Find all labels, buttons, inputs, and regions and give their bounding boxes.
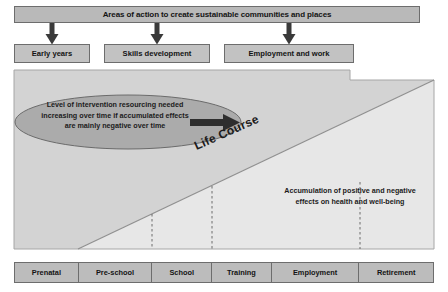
action-box-employment-and-work-label: Employment and work xyxy=(248,49,329,58)
action-box-skills-development[interactable]: Skills development xyxy=(104,44,210,63)
action-box-employment-and-work[interactable]: Employment and work xyxy=(224,44,354,63)
life-stage-retirement[interactable]: Retirement xyxy=(359,263,433,282)
accumulation-caption-line-2: effects on health and well-being xyxy=(262,197,438,208)
areas-of-action-header-label: Areas of action to create sustainable co… xyxy=(103,10,332,19)
intervention-ellipse-caption-line-3: are mainly negative over time xyxy=(30,121,200,132)
life-stage-employment-label: Employment xyxy=(293,268,337,277)
arrow-down-employment-and-work xyxy=(282,23,296,45)
accumulation-caption: Accumulation of positive and negative ef… xyxy=(262,186,438,207)
life-stage-pre-school[interactable]: Pre-school xyxy=(79,263,153,282)
life-course-diagram: Areas of action to create sustainable co… xyxy=(0,0,448,292)
life-stage-prenatal-label: Prenatal xyxy=(32,268,61,277)
life-stage-training[interactable]: Training xyxy=(212,263,272,282)
action-box-early-years[interactable]: Early years xyxy=(14,44,90,63)
intervention-ellipse-caption-line-1: Level of intervention resourcing needed xyxy=(30,100,200,111)
life-stage-training-label: Training xyxy=(227,268,256,277)
life-stage-school[interactable]: School xyxy=(152,263,212,282)
life-stage-prenatal[interactable]: Prenatal xyxy=(15,263,79,282)
accumulation-caption-line-1: Accumulation of positive and negative xyxy=(262,186,438,197)
areas-of-action-header: Areas of action to create sustainable co… xyxy=(14,6,420,23)
life-stage-school-label: School xyxy=(169,268,194,277)
arrow-down-early-years xyxy=(45,23,59,45)
intervention-ellipse-caption: Level of intervention resourcing needed … xyxy=(30,100,200,132)
action-box-skills-development-label: Skills development xyxy=(123,49,192,58)
life-stage-row: Prenatal Pre-school School Training Empl… xyxy=(14,262,434,283)
intervention-ellipse-caption-line-2: increasing over time if accumulated effe… xyxy=(30,111,200,122)
arrow-down-skills-development xyxy=(150,23,164,45)
life-stage-pre-school-label: Pre-school xyxy=(96,268,134,277)
action-box-early-years-label: Early years xyxy=(32,49,73,58)
life-stage-retirement-label: Retirement xyxy=(377,268,416,277)
life-stage-employment[interactable]: Employment xyxy=(272,263,360,282)
